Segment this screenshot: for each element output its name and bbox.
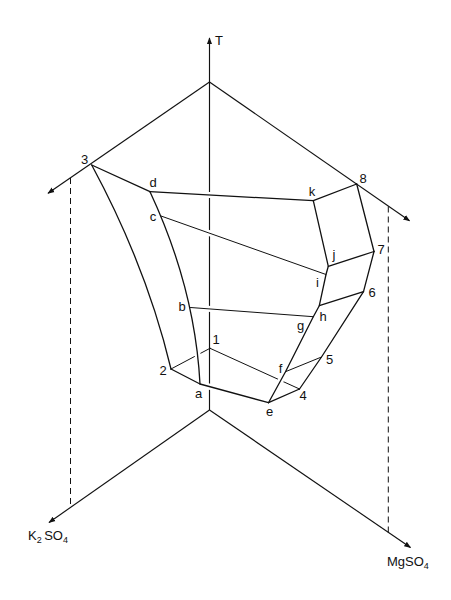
ternary-temperature-diagram: T K2SO4 MgSO4 3 d c b a 2 1 e 4 f 5 g h … (0, 0, 451, 600)
edge-e-a-2 (171, 369, 269, 403)
point-label-c: c (150, 209, 157, 224)
edge-6-5-4 (300, 292, 364, 389)
edge-4-e (269, 389, 300, 403)
edge-3-d (92, 165, 150, 192)
k2so4-axis-label: K2SO4 (28, 528, 68, 545)
phase-body-edges (92, 165, 374, 403)
k2so4-upper-axis (48, 82, 210, 193)
point-label-5: 5 (326, 352, 333, 367)
point-label-h: h (319, 309, 326, 324)
mgso4-base-axis (210, 410, 411, 548)
point-label-g: g (297, 318, 304, 333)
mgso4-axis-label: MgSO4 (387, 554, 429, 571)
point-label-k: k (309, 184, 316, 199)
point-label-2: 2 (159, 363, 166, 378)
point-labels: 3 d c b a 2 1 e 4 f 5 g h 6 i j 7 k 8 (81, 152, 385, 419)
diagram-canvas: T K2SO4 MgSO4 3 d c b a 2 1 e 4 f 5 g h … (0, 0, 451, 600)
point-label-1: 1 (212, 332, 219, 347)
point-label-8: 8 (359, 171, 366, 186)
k2so4-base-axis (49, 410, 210, 523)
edge-2-3-curve (92, 165, 171, 369)
edge-h-6 (319, 292, 363, 306)
point-label-6: 6 (368, 285, 375, 300)
edge-c-i (161, 216, 326, 275)
point-label-i: i (316, 275, 319, 290)
edge-1-4 (210, 348, 300, 389)
point-label-4: 4 (299, 388, 306, 403)
point-label-7: 7 (377, 242, 384, 257)
edge-2-1 (171, 348, 210, 369)
temperature-axis-label: T (215, 33, 223, 48)
edge-d-k (150, 192, 313, 201)
point-label-b: b (178, 299, 185, 314)
edge-k-8 (313, 184, 356, 201)
point-label-e: e (266, 404, 273, 419)
point-label-a: a (195, 386, 203, 401)
point-label-f: f (279, 361, 283, 376)
point-label-3: 3 (81, 152, 88, 167)
point-label-j: j (332, 247, 336, 262)
point-label-d: d (149, 175, 156, 190)
edge-k-j-i-h-g-f-e (269, 201, 329, 403)
edge-b-g (191, 308, 314, 317)
